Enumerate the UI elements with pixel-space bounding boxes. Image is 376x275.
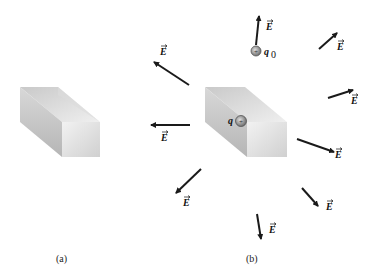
e-label: E <box>265 21 273 32</box>
arrow-e-down <box>257 214 261 239</box>
e-label: E <box>336 41 344 52</box>
e-label: E <box>325 201 333 212</box>
test-charge: + q 0 <box>251 46 276 60</box>
e-label: E <box>334 149 342 160</box>
arrow-e-lower-left <box>176 169 201 193</box>
caption-b: (b) <box>246 253 258 265</box>
e-label: E <box>159 46 167 57</box>
arrow-e-lower-right-2 <box>302 188 318 206</box>
test-charge-subscript: 0 <box>271 49 276 60</box>
e-label: E <box>350 95 358 106</box>
caption-a: (a) <box>56 253 67 265</box>
source-charge-label: q <box>228 115 233 126</box>
e-label: E <box>182 197 190 208</box>
arrow-e-upper-right <box>319 33 337 49</box>
test-charge-label: q <box>264 46 269 57</box>
figure-canvas: + q + q 0 E E E E E E E E E <box>0 0 376 275</box>
source-charge: + q <box>228 115 247 127</box>
e-label: E <box>160 132 168 143</box>
box-a <box>20 87 100 157</box>
arrow-e-right <box>328 90 353 98</box>
arrow-e-up <box>256 16 259 45</box>
e-label: E <box>268 224 276 235</box>
arrow-e-lower-right <box>297 139 334 152</box>
svg-text:+: + <box>254 48 258 56</box>
svg-text:+: + <box>239 118 243 126</box>
arrow-e-upper-left <box>154 62 189 85</box>
